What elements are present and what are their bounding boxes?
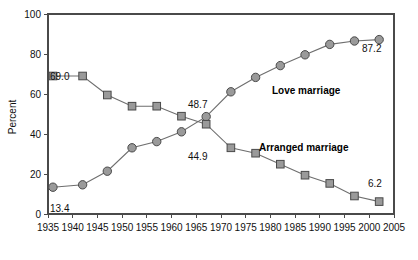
x-tick-label: 1975 (235, 222, 258, 233)
data-point-marker (276, 61, 284, 69)
x-tick-label: 1935 (37, 222, 60, 233)
data-point-marker (103, 167, 111, 175)
y-tick-label: 80 (30, 49, 42, 60)
y-tick-label: 60 (30, 89, 42, 100)
data-point-marker (351, 192, 359, 200)
data-point-marker (251, 73, 259, 81)
x-tick-label: 1955 (136, 222, 159, 233)
y-tick-label: 100 (24, 9, 41, 20)
value-label-69: 69.0 (50, 71, 70, 82)
x-tick-label: 1985 (284, 222, 307, 233)
x-tick-label: 1990 (309, 222, 332, 233)
x-tick-label: 2005 (383, 222, 406, 233)
data-point-marker (350, 37, 358, 45)
data-point-marker (277, 160, 285, 168)
data-point-marker (227, 144, 235, 152)
x-tick-label: 2000 (358, 222, 381, 233)
y-axis-title: Percent (7, 100, 18, 135)
x-tick-label: 1960 (160, 222, 183, 233)
value-label-13-4: 13.4 (50, 203, 70, 214)
x-tick-label: 1950 (111, 222, 134, 233)
data-point-marker (178, 112, 186, 120)
data-point-marker (153, 137, 161, 145)
series-label-arranged: Arranged marriage (259, 142, 349, 153)
data-point-marker (153, 102, 161, 110)
x-tick-label: 1980 (259, 222, 282, 233)
value-label-6-2: 6.2 (368, 178, 382, 189)
data-point-marker (104, 91, 112, 99)
value-label-87-2: 87.2 (362, 43, 382, 54)
data-point-marker (128, 102, 136, 110)
data-point-marker (301, 171, 309, 179)
value-label-48-7: 48.7 (188, 99, 208, 110)
data-point-marker (79, 72, 87, 80)
x-tick-label: 1940 (62, 222, 85, 233)
data-point-marker (301, 51, 309, 59)
value-label-44-9: 44.9 (188, 151, 208, 162)
data-point-marker (177, 128, 185, 136)
data-point-marker (78, 181, 86, 189)
series-label-love: Love marriage (272, 85, 341, 96)
data-point-marker (326, 40, 334, 48)
data-point-marker (375, 198, 383, 206)
data-point-marker (202, 120, 210, 128)
data-point-marker (326, 180, 334, 188)
y-tick-label: 0 (35, 209, 41, 220)
x-tick-label: 1945 (86, 222, 109, 233)
chart-container: 020406080100 193519401945195019551960196… (0, 0, 418, 260)
data-point-marker (202, 112, 210, 120)
y-tick-label: 20 (30, 169, 42, 180)
data-point-marker (128, 144, 136, 152)
y-tick-label: 40 (30, 129, 42, 140)
data-point-marker (49, 183, 57, 191)
x-tick-label: 1970 (210, 222, 233, 233)
data-point-marker (227, 88, 235, 96)
x-tick-label: 1995 (333, 222, 356, 233)
line-chart: 020406080100 193519401945195019551960196… (0, 0, 418, 260)
x-tick-label: 1965 (185, 222, 208, 233)
